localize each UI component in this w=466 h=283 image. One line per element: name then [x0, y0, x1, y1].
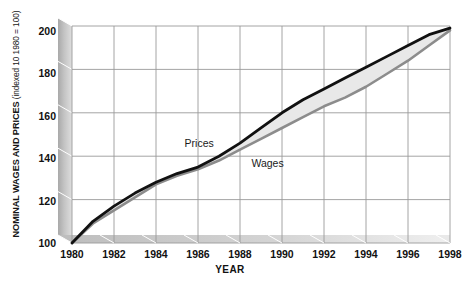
x-axis-title: YEAR — [0, 264, 460, 275]
x-tick-label: 1986 — [178, 248, 218, 260]
x-tick-label: 1998 — [430, 248, 466, 260]
x-tick-label: 1996 — [388, 248, 428, 260]
x-tick-label: 1988 — [220, 248, 260, 260]
x-tick-label: 1994 — [346, 248, 386, 260]
x-tick-label: 1982 — [94, 248, 134, 260]
x-tick-label: 1984 — [136, 248, 176, 260]
x-tick-label: 1980 — [52, 248, 92, 260]
x-tick-label: 1990 — [262, 248, 302, 260]
x-tick-label: 1992 — [304, 248, 344, 260]
